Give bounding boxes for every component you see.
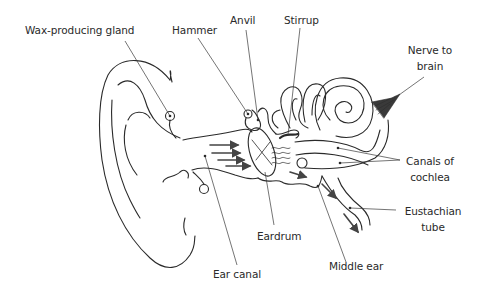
- label-eardrum: Eardrum: [257, 228, 301, 244]
- label-middle-ear: Middle ear: [329, 258, 383, 274]
- eustachian-tube-shape: [258, 176, 370, 230]
- semicircular-canals: [272, 84, 325, 128]
- label-nerve-line2: brain: [400, 58, 460, 74]
- sound-arrows: [210, 145, 358, 232]
- label-eustachian-line1: Eustachian: [398, 203, 468, 219]
- label-canals-line1: Canals of: [400, 153, 460, 169]
- label-nerve-to-brain: Nerve to brain: [400, 42, 460, 74]
- label-stirrup: Stirrup: [284, 12, 319, 28]
- label-canals-of-cochlea: Canals of cochlea: [400, 153, 460, 185]
- label-eustachian-line2: tube: [398, 219, 468, 235]
- label-ear-canal: Ear canal: [213, 266, 261, 282]
- pinna: [100, 61, 195, 268]
- label-nerve-line1: Nerve to: [400, 42, 460, 58]
- label-eustachian-tube: Eustachian tube: [398, 203, 468, 235]
- label-anvil: Anvil: [230, 12, 255, 28]
- label-wax-producing-gland: Wax-producing gland: [25, 22, 134, 38]
- label-canals-line2: cochlea: [400, 169, 460, 185]
- ear-canal-walls: [183, 129, 258, 179]
- ear-diagram: Wax-producing gland Hammer Anvil Stirrup…: [0, 0, 479, 294]
- wax-gland-lower: [193, 172, 209, 194]
- label-hammer: Hammer: [172, 22, 217, 38]
